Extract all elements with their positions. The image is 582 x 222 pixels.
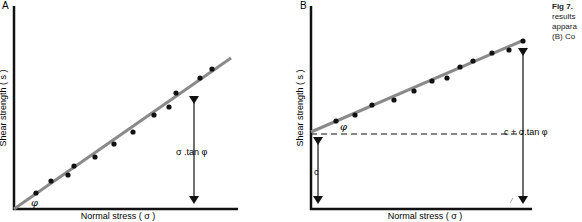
figure-canvas: A Shear strength ( s ) Normal stress ( σ… (0, 0, 582, 222)
caption-line: Fig 7. (552, 2, 577, 12)
panel-label: B (300, 0, 307, 11)
y-axis-label: Shear strength ( s ) (295, 69, 305, 146)
y-axis-label: Shear strength ( s ) (0, 69, 8, 146)
intercept-label: c (314, 167, 319, 177)
caption-line: (B) Co (552, 32, 577, 42)
caption-line: appara (552, 22, 577, 32)
x-axis-label: Normal stress ( σ ) (388, 211, 463, 221)
panel-label: A (2, 0, 9, 11)
panel-a (13, 6, 238, 210)
caption-line: results (552, 12, 577, 22)
annotation-label: σ .tan φ (176, 147, 208, 157)
stray-mark (510, 198, 513, 203)
annotation-label: c + σ.tan φ (504, 127, 548, 137)
angle-label: φ (31, 197, 38, 208)
figure-caption: Fig 7. results appara (B) Co (552, 2, 577, 42)
angle-label: φ (340, 121, 347, 132)
fit-line (14, 58, 231, 209)
panel-b (310, 6, 532, 210)
x-axis-label: Normal stress ( σ ) (81, 211, 156, 221)
